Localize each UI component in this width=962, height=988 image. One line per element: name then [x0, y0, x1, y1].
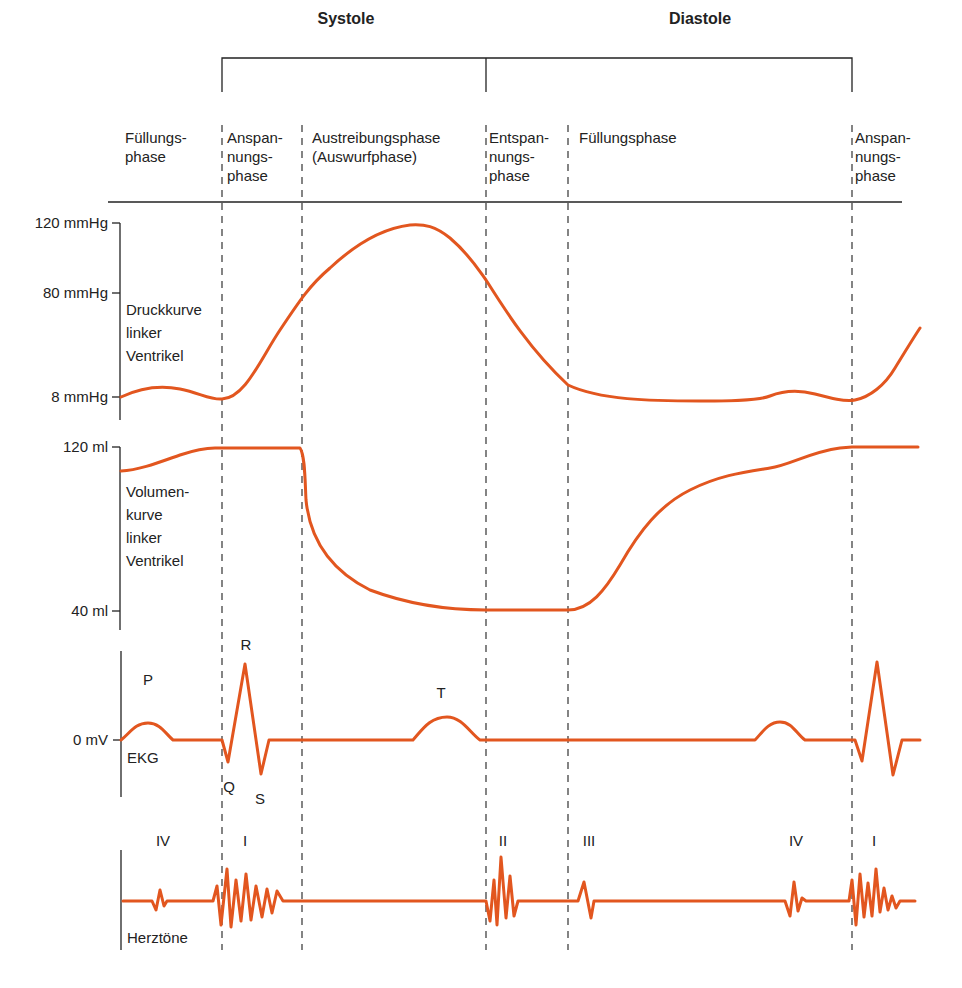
volume-panel: 120 ml 40 ml Volumen-kurvelinkerVentrike…: [63, 438, 918, 630]
ekg-label: EKG: [127, 749, 159, 766]
bracket-line: [222, 58, 852, 92]
phase-label: Entspan-nungs-phase: [489, 129, 549, 184]
tick-label: 120 ml: [63, 438, 108, 455]
tone-label: IV: [789, 832, 803, 849]
tick-label: 40 ml: [71, 602, 108, 619]
phase-label: Austreibungsphase(Auswurfphase): [312, 129, 440, 165]
tick-label: 0 mV: [73, 731, 108, 748]
tone-label: II: [499, 832, 507, 849]
phase-label: Füllungs-phase: [125, 129, 187, 165]
tone-label: I: [872, 832, 876, 849]
heart-sounds-label: Herztöne: [127, 929, 188, 946]
tone-label: IV: [156, 832, 170, 849]
wave-label-r: R: [241, 636, 252, 653]
wave-label-t: T: [436, 684, 445, 701]
heart-sounds-panel: Herztöne IV I II III IV I: [121, 832, 915, 950]
phase-labels: Füllungs-phase Anspan-nungs-phase Austre…: [125, 129, 911, 184]
wave-label-s: S: [255, 790, 265, 807]
tick-label: 8 mmHg: [51, 388, 108, 405]
pressure-panel: 120 mmHg 80 mmHg 8 mmHg Druckkurvelinker…: [35, 214, 920, 420]
ekg-panel: 0 mV EKG P R T Q S: [73, 636, 920, 807]
pressure-curve-label: DruckkurvelinkerVentrikel: [126, 301, 202, 364]
wave-label-q: Q: [223, 778, 235, 795]
pressure-curve: [121, 225, 920, 401]
tone-label: I: [243, 832, 247, 849]
volume-curve-label: Volumen-kurvelinkerVentrikel: [126, 483, 189, 569]
diastole-label: Diastole: [669, 10, 731, 27]
ekg-curve: [121, 662, 920, 775]
cardiac-cycle-diagram: Systole Diastole Füllungs-phase Anspan-n…: [0, 0, 962, 988]
phase-label: Anspan-nungs-phase: [227, 129, 283, 184]
phase-brackets: Systole Diastole: [222, 10, 852, 92]
tick-label: 120 mmHg: [35, 214, 108, 231]
wave-label-p: P: [143, 671, 153, 688]
phase-label: Füllungsphase: [579, 129, 677, 146]
phase-label: Anspan-nungs-phase: [855, 129, 911, 184]
systole-label: Systole: [318, 10, 375, 27]
tick-label: 80 mmHg: [43, 284, 108, 301]
heart-sounds-curve: [123, 857, 915, 927]
tone-label: III: [583, 832, 596, 849]
volume-curve: [121, 447, 918, 610]
